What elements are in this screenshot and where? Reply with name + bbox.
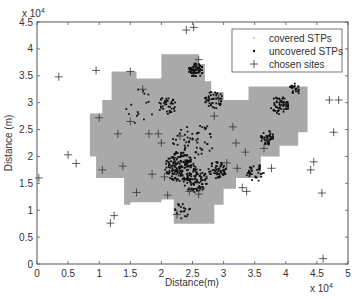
svg-text:5: 5 — [345, 268, 351, 279]
svg-text:4: 4 — [27, 43, 33, 54]
svg-text:1.5: 1.5 — [19, 178, 33, 189]
svg-text:2: 2 — [159, 268, 165, 279]
scatter-chart: 00.511.522.533.544.55 00.511.522.533.544… — [0, 0, 359, 302]
svg-text:3: 3 — [27, 97, 33, 108]
svg-text:4: 4 — [283, 268, 289, 279]
covered-region — [90, 54, 308, 223]
covered-marker-icon — [253, 37, 255, 39]
uncovered-marker-icon — [253, 50, 255, 52]
svg-text:0: 0 — [34, 268, 40, 279]
svg-text:3: 3 — [221, 268, 227, 279]
svg-text:3.5: 3.5 — [248, 268, 262, 279]
svg-text:1: 1 — [96, 268, 102, 279]
svg-text:2.5: 2.5 — [19, 124, 33, 135]
svg-text:0.5: 0.5 — [19, 232, 33, 243]
x-multiplier: x 104 — [310, 282, 333, 294]
svg-text:0: 0 — [27, 259, 33, 270]
svg-text:1: 1 — [27, 205, 33, 216]
x-axis-label: Distance(m) — [165, 277, 219, 288]
legend: covered STPs uncovered STPs chosen sites — [232, 29, 343, 72]
svg-text:3.5: 3.5 — [19, 70, 33, 81]
svg-text:4.5: 4.5 — [310, 268, 324, 279]
legend-uncovered: uncovered STPs — [269, 46, 343, 57]
legend-sites: chosen sites — [269, 59, 325, 70]
y-multiplier: x 104 — [22, 7, 45, 19]
svg-text:2: 2 — [27, 151, 33, 162]
y-axis-label: Distance (m) — [3, 115, 14, 172]
legend-covered: covered STPs — [269, 33, 332, 44]
svg-text:1.5: 1.5 — [123, 268, 137, 279]
svg-text:0.5: 0.5 — [61, 268, 75, 279]
